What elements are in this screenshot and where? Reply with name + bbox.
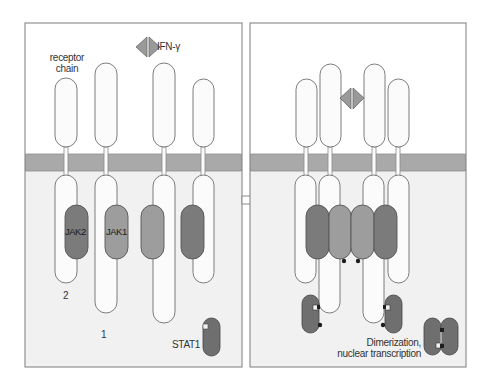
receptor-chain-label: receptor chain: [44, 52, 90, 74]
cell-membrane: [21, 154, 246, 171]
left-panel: [21, 23, 246, 367]
cell-membrane-right: [246, 154, 470, 171]
jak2-kinase-active: [306, 205, 329, 259]
receptor-chain-1-extracellular-bound: [320, 64, 341, 147]
jak1-label: JAK1: [106, 226, 127, 237]
chain-1-label: 1: [101, 329, 106, 340]
jak1-kinase-active: [329, 205, 351, 259]
jak1-kinase-b: [141, 205, 164, 259]
outcome-line2: nuclear transcription: [330, 348, 421, 359]
jak2-kinase-b: [181, 205, 204, 259]
receptor-chain-1b-extracellular: [153, 63, 175, 147]
receptor-chain-2-extracellular: [55, 78, 77, 147]
stat1-label: STAT1: [172, 339, 200, 350]
receptor-label-line1: receptor: [44, 52, 90, 63]
receptor-chain-2b-extracellular: [193, 79, 214, 147]
outcome-label: Dimerization, nuclear transcription: [330, 337, 421, 359]
outcome-line1: Dimerization,: [330, 337, 421, 348]
right-panel: [246, 23, 470, 367]
jak2-label: JAK2: [65, 226, 86, 237]
receptor-chain-2b-extracellular-bound: [388, 79, 409, 147]
chain-2-label: 2: [63, 290, 68, 301]
receptor-chain-1b-extracellular-bound: [364, 64, 385, 147]
receptor-label-line2: chain: [44, 63, 90, 74]
stat1-icon: [203, 318, 220, 356]
ifn-gamma-label: IFN-γ: [157, 41, 180, 52]
receptor-chain-1-extracellular: [95, 63, 117, 147]
jak1-kinase-active-b: [351, 205, 374, 259]
jak2-kinase-active-b: [374, 205, 397, 259]
receptor-chain-2-extracellular-bound: [296, 79, 317, 147]
